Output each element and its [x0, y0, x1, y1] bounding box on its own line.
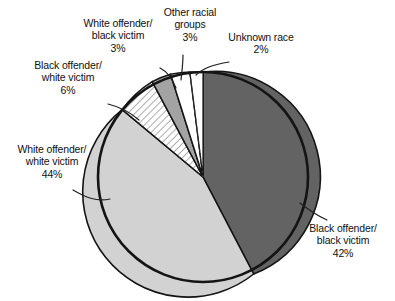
label-unknown-race: Unknown race 2%: [214, 31, 308, 56]
label-percent: 2%: [214, 43, 308, 55]
label-line-2: groups: [152, 18, 228, 30]
label-line-2: black victim: [293, 234, 393, 246]
label-line-1: Black offender/: [293, 222, 393, 234]
label-line-1: White offender/: [2, 143, 102, 155]
label-white-offender-white-victim: White offender/ white victim 44%: [2, 143, 102, 180]
label-line-1: Other racial: [152, 6, 228, 18]
pie-chart-figure: White offender/ black victim 3% Other ra…: [0, 0, 395, 301]
label-black-offender-black-victim: Black offender/ black victim 42%: [293, 222, 393, 259]
label-line-1: Unknown race: [214, 31, 308, 43]
label-line-2: white victim: [2, 155, 102, 167]
label-line-2: white victim: [18, 71, 118, 83]
label-percent: 3%: [62, 42, 174, 54]
label-percent: 42%: [293, 247, 393, 259]
label-percent: 44%: [2, 168, 102, 180]
label-line-1: Black offender/: [18, 59, 118, 71]
label-black-offender-white-victim: Black offender/ white victim 6%: [18, 59, 118, 96]
label-percent: 6%: [18, 84, 118, 96]
